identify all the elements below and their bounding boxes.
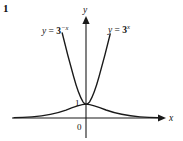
curve-y-equals-3-to-the-x: [14, 34, 110, 118]
curve-label-right-equals: =: [112, 25, 122, 35]
x-axis-label: x: [168, 113, 174, 123]
origin-label: 0: [77, 122, 82, 132]
curve-label-left-equals: =: [46, 26, 56, 36]
curve-label-left: y = 3−x: [41, 24, 69, 36]
y-intercept-tick-label: 1: [75, 98, 80, 108]
curve-label-left-exponent: −x: [61, 24, 68, 31]
y-axis-arrowhead: [82, 16, 89, 24]
curve-label-right-exponent: x: [126, 23, 130, 30]
y-axis-group: [82, 16, 89, 138]
figure-container: 1 y = 3−x y = 3x y x 1 0: [0, 0, 183, 141]
exponential-graph-plot: y = 3−x y = 3x y x 1 0: [0, 0, 183, 141]
x-axis-group: [12, 114, 166, 121]
y-axis-label: y: [82, 5, 88, 15]
curve-label-right: y = 3x: [107, 23, 130, 35]
x-axis-arrowhead: [158, 114, 166, 121]
